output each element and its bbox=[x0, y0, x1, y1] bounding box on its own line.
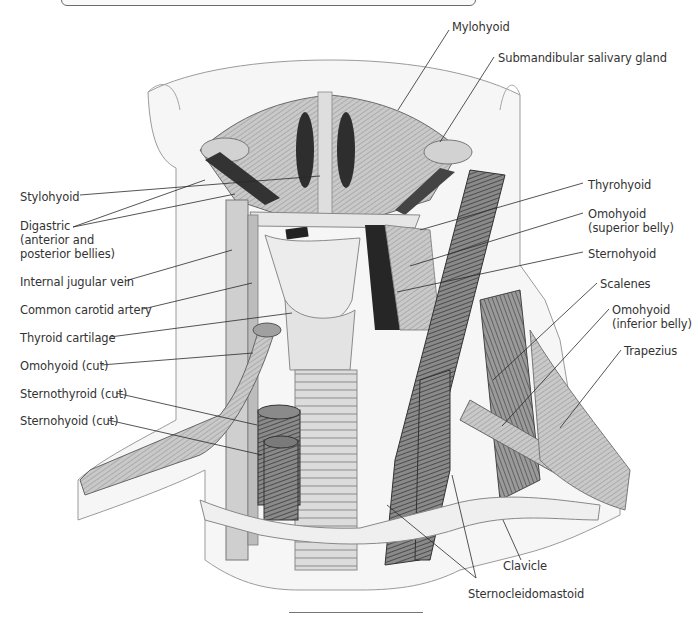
infrahyoid-cut-bundles bbox=[258, 405, 300, 520]
label-sternocleidomastoid: Sternocleidomastoid bbox=[468, 587, 584, 601]
label-stylohyoid: Stylohyoid bbox=[20, 190, 79, 204]
label-internal-jugular-vein: Internal jugular vein bbox=[20, 275, 134, 289]
label-omohyoid-inferior-belly: Omohyoid (inferior belly) bbox=[612, 303, 692, 331]
label-omohyoid-cut: Omohyoid (cut) bbox=[20, 359, 108, 373]
label-sternohyoid: Sternohyoid bbox=[588, 247, 656, 261]
label-sternohyoid-cut: Sternohyoid (cut) bbox=[20, 414, 118, 428]
label-trapezius: Trapezius bbox=[624, 344, 677, 358]
label-common-carotid-artery: Common carotid artery bbox=[20, 303, 152, 317]
label-digastric: Digastric (anterior and posterior bellie… bbox=[20, 219, 115, 261]
label-omohyoid-superior-belly: Omohyoid (superior belly) bbox=[588, 207, 674, 235]
label-clavicle: Clavicle bbox=[503, 559, 547, 573]
label-submandibular-salivary-gland: Submandibular salivary gland bbox=[498, 51, 667, 65]
label-thyroid-cartilage: Thyroid cartilage bbox=[20, 331, 116, 345]
label-sternothyroid-cut: Sternothyroid (cut) bbox=[20, 387, 127, 401]
label-thyrohyoid: Thyrohyoid bbox=[588, 178, 651, 192]
label-scalenes: Scalenes bbox=[600, 277, 651, 291]
bottom-divider bbox=[289, 612, 423, 613]
label-mylohyoid: Mylohyoid bbox=[452, 20, 510, 34]
hyoid-bone bbox=[250, 212, 420, 228]
